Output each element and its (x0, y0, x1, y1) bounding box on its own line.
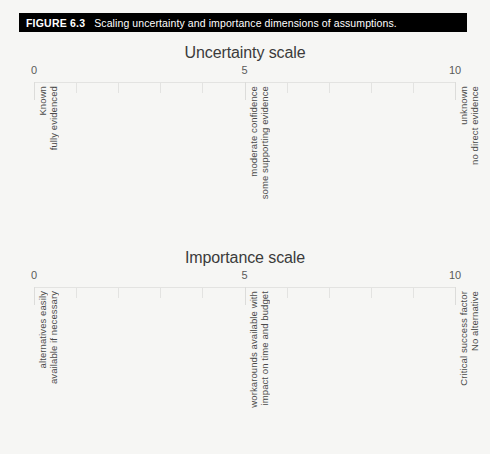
scale-annotation-line: impact on time and budget (259, 291, 270, 405)
tick-label: 5 (241, 64, 247, 76)
tick-mark (160, 287, 161, 298)
tick-label: 10 (449, 269, 461, 281)
tick-label: 0 (31, 269, 37, 281)
tick-mark (371, 287, 372, 298)
scale-annotation-line: fully evidenced (48, 86, 59, 150)
tick-mark (118, 82, 119, 93)
scale-annotation: workarounds available withimpact on time… (248, 291, 272, 408)
tick-label: 0 (31, 64, 37, 76)
scale-annotation-line: moderate confidence (248, 86, 259, 177)
scale-annotation-line: workarounds available with (248, 291, 259, 408)
scale-annotation-line: No alternative (469, 291, 480, 351)
uncertainty-axis-area: 0510 Knownfully evidencedmoderate confid… (34, 44, 455, 194)
tick-mark (160, 82, 161, 93)
tick-label: 10 (449, 64, 461, 76)
tick-mark (455, 287, 456, 305)
tick-mark (202, 82, 203, 93)
scale-annotation-line: no direct evidence (469, 86, 480, 165)
scale-annotation-line: alternatives easily (37, 291, 48, 368)
scale-annotation-line: Known (37, 86, 48, 116)
tick-mark (34, 287, 35, 305)
figure-caption-text: Scaling uncertainty and importance dimen… (94, 17, 397, 29)
scale-annotation: Critical success factorNo alternative (458, 291, 482, 386)
tick-label: 5 (241, 269, 247, 281)
tick-mark (287, 82, 288, 93)
scale-annotation: alternatives easilyavailable if necessar… (37, 291, 61, 384)
tick-mark (371, 82, 372, 93)
tick-mark (329, 287, 330, 298)
scale-annotation: Knownfully evidenced (37, 86, 61, 150)
scale-annotation: unknownno direct evidence (458, 86, 482, 165)
scale-annotation-line: available if necessary (48, 291, 59, 384)
tick-mark (329, 82, 330, 93)
tick-mark (202, 287, 203, 298)
tick-mark (287, 287, 288, 298)
scale-annotation-line: Critical success factor (458, 291, 469, 386)
figure-caption-bar: FIGURE 6.3 Scaling uncertainty and impor… (19, 13, 467, 32)
scale-annotation: moderate confidencesome supporting evide… (248, 86, 272, 199)
tick-mark (118, 287, 119, 298)
tick-mark (76, 82, 77, 93)
tick-mark (413, 287, 414, 298)
tick-mark (455, 82, 456, 100)
tick-mark (76, 287, 77, 298)
scale-annotation-line: some supporting evidence (259, 86, 270, 199)
tick-mark (34, 82, 35, 100)
scale-annotation-line: unknown (458, 86, 469, 125)
tick-mark (413, 82, 414, 93)
tick-mark (245, 287, 246, 305)
tick-mark (245, 82, 246, 100)
importance-axis-area: 0510 alternatives easilyavailable if nec… (34, 249, 455, 399)
figure-number-label: FIGURE 6.3 (26, 17, 85, 29)
